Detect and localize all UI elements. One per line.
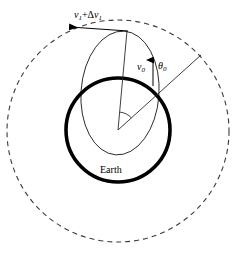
v0-sub: 0	[141, 66, 145, 74]
transfer-ellipse	[77, 28, 163, 157]
delta-v-sub2: 1	[98, 14, 102, 22]
burn-velocity-arrow	[70, 27, 128, 31]
theta-angle-arc	[120, 112, 131, 118]
earth-label: Earth	[100, 165, 122, 175]
theta0-label: θ0	[158, 61, 166, 73]
apsis-line	[118, 31, 127, 130]
delta-v-label: v1+Δv1	[74, 10, 102, 22]
v0-label: v0	[137, 62, 145, 74]
orbit-diagram-canvas	[0, 0, 239, 257]
orbital-transfer-figure: v1+Δv1 v0 θ0 Earth	[0, 0, 239, 257]
delta-v-operator: +Δ	[82, 9, 94, 20]
theta0-sub: 0	[163, 65, 167, 73]
final-circular-orbit	[7, 20, 229, 242]
